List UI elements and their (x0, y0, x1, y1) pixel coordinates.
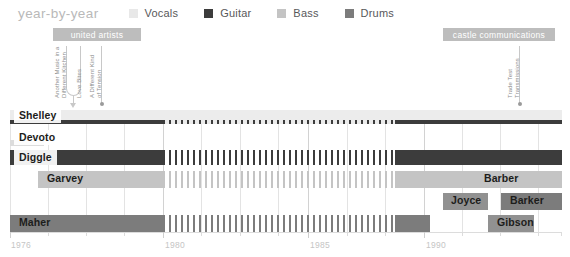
release-title: Love Bites (76, 69, 83, 98)
axis-label-1976: 1976 (11, 240, 31, 250)
axis-tick (201, 232, 202, 236)
record-label-united-artists: united artists (53, 28, 141, 41)
bar-garvey-bass-late[interactable] (395, 171, 475, 188)
axis-tick (561, 232, 562, 236)
release-title: A Different Kind of Tension (89, 55, 103, 98)
axis-line (10, 232, 562, 233)
legend-item-guitar[interactable]: Guitar (204, 7, 251, 19)
legend-item-drums[interactable]: Drums (345, 7, 394, 19)
record-label-castle-communications: castle communications (443, 28, 555, 41)
bar-shelley-guitar-hiatus[interactable] (163, 120, 395, 124)
release-title-line: Different Kitchen (61, 52, 67, 98)
axis-label-1980: 1980 (165, 240, 185, 250)
release-title-line: Trade Test (507, 69, 513, 98)
row-label-maher: Maher (14, 215, 55, 230)
release-title-line: Love Bites (76, 69, 82, 98)
legend-label-guitar: Guitar (220, 7, 251, 19)
legend-swatch-guitar (204, 9, 213, 18)
axis-label-1990: 1990 (426, 240, 446, 250)
legend-label-bass: Bass (293, 7, 318, 19)
release-bracket-arrow-icon (70, 103, 76, 108)
axis-tick (347, 232, 348, 236)
bar-shelley-guitar-late[interactable] (395, 120, 562, 124)
axis-tick (500, 232, 501, 236)
record-label-text: united artists (71, 30, 123, 40)
axis-tick (424, 232, 425, 238)
release-marker-dot-icon (518, 102, 522, 106)
legend-item-bass[interactable]: Bass (277, 7, 318, 19)
row-label-gibson: Gibson (492, 215, 539, 230)
row-label-joyce: Joyce (446, 193, 486, 208)
bar-maher-drums-hiatus[interactable] (163, 215, 395, 232)
legend-swatch-vocals (129, 9, 138, 18)
release-title-line: A Different Kind (89, 55, 95, 98)
record-label-text: castle communications (453, 30, 545, 40)
axis-label-1985: 1985 (310, 240, 330, 250)
row-label-shelley: Shelley (14, 108, 61, 123)
row-label-devoto: Devoto (14, 130, 60, 145)
row-label-barber: Barber (479, 171, 523, 186)
legend-item-vocals[interactable]: Vocals (129, 7, 179, 19)
release-title-line: Another Music in a (54, 47, 60, 99)
x-axis: 1976 1980 1985 1990 (0, 232, 570, 257)
bar-diggle-guitar-late[interactable] (395, 150, 562, 165)
legend-label-vocals: Vocals (145, 7, 179, 19)
bar-diggle-guitar-hiatus[interactable] (163, 150, 395, 165)
legend: Vocals Guitar Bass Drums (129, 7, 420, 19)
release-title: Trade Test Transmissions (507, 58, 521, 98)
axis-tick (308, 232, 309, 238)
axis-tick (48, 232, 49, 236)
release-marker-dot-icon (100, 102, 104, 106)
timeline-plot: united artists castle communications Ano… (0, 26, 570, 257)
axis-tick (124, 232, 125, 236)
bar-maher-drums-late[interactable] (395, 215, 430, 232)
release-title: Another Music in a Different Kitchen (54, 47, 68, 99)
chart-header: year-by-year Vocals Guitar Bass Drums (0, 0, 570, 26)
row-label-garvey: Garvey (42, 171, 88, 186)
axis-tick (86, 232, 87, 236)
legend-swatch-drums (345, 9, 354, 18)
release-title-line: Transmissions (514, 58, 520, 98)
axis-tick (240, 232, 241, 236)
gridline (10, 110, 11, 232)
legend-label-drums: Drums (361, 7, 394, 19)
row-label-barker: Barker (505, 193, 549, 208)
axis-tick (163, 232, 164, 238)
page-title: year-by-year (18, 6, 99, 21)
bar-garvey-bass-hiatus[interactable] (163, 171, 395, 188)
axis-tick (385, 232, 386, 236)
axis-tick (278, 232, 279, 236)
legend-swatch-bass (277, 9, 286, 18)
release-title-line: of Tension (96, 70, 102, 98)
axis-tick (538, 232, 539, 236)
row-label-diggle: Diggle (14, 150, 57, 165)
axis-tick (462, 232, 463, 236)
axis-tick (10, 232, 11, 238)
